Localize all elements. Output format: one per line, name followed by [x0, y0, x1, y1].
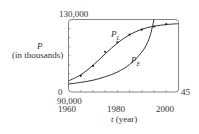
curve-label-exponential: PE: [131, 55, 140, 69]
data-point: [129, 33, 131, 35]
plot-frame: [69, 20, 179, 93]
x-tick-1960: 1960: [58, 104, 76, 114]
curves: [69, 20, 179, 85]
y-axis-unit: (in thousands): [12, 50, 63, 60]
x-max-label: 45: [181, 87, 190, 97]
x-axis-title: t (year): [111, 114, 137, 124]
curve-label-logistic: PL: [111, 29, 120, 43]
data-point: [141, 29, 143, 31]
x-tick-1980: 1980: [107, 104, 125, 114]
data-point: [153, 25, 155, 27]
curve-p-l: [69, 24, 179, 81]
data-point: [80, 75, 82, 77]
x-tick-2000: 2000: [156, 104, 174, 114]
y-max-label: 130,000: [59, 9, 88, 19]
data-point: [165, 23, 167, 25]
data-point: [92, 65, 94, 67]
data-point: [104, 51, 106, 53]
